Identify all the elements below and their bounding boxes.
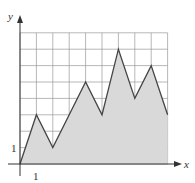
shaded-area — [20, 49, 168, 164]
area-chart: y x 1 1 — [0, 0, 195, 183]
y-axis-label: y — [7, 10, 13, 22]
x-tick-label: 1 — [33, 170, 39, 182]
y-tick-label: 1 — [11, 142, 17, 154]
x-axis-label: x — [183, 158, 189, 170]
